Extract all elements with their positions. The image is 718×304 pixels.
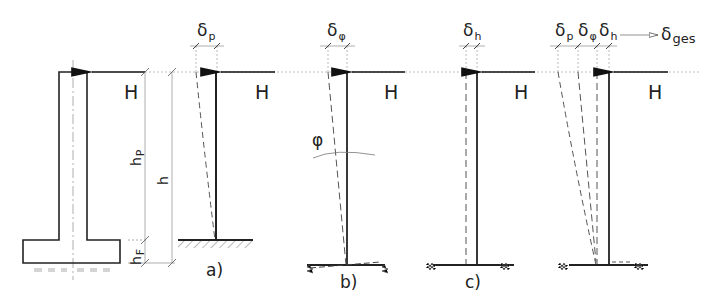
total-deflection-label: δges xyxy=(661,26,695,43)
deflection-label-c: δh xyxy=(463,22,481,39)
panel-label-b: b) xyxy=(340,274,357,291)
deflected-shape-a xyxy=(196,72,215,240)
deflection-label-a: δp xyxy=(197,22,215,39)
force-label: H xyxy=(648,83,662,102)
deflection-label-d-phi: δφ xyxy=(578,22,597,39)
panel-label-c: c) xyxy=(465,274,481,291)
deflection-label-d-h: δh xyxy=(599,22,617,39)
fixed-support-hatch xyxy=(178,240,253,248)
panel-total xyxy=(550,35,668,270)
panel-label-a: a) xyxy=(206,262,223,279)
soil-marks xyxy=(34,269,110,271)
panel-a xyxy=(178,43,275,248)
spring-support xyxy=(426,263,510,270)
deflection-label-d-p: δp xyxy=(555,22,573,39)
rotation-angle-label: φ xyxy=(312,132,323,149)
deflection-label-b: δφ xyxy=(327,22,346,39)
panel-b xyxy=(307,43,405,273)
panel-c xyxy=(426,43,535,270)
force-label: H xyxy=(514,83,528,102)
structural-deflection-diagram xyxy=(0,0,718,304)
total-height-label: h xyxy=(156,176,170,185)
pier-height-label: hP xyxy=(129,149,143,166)
foundation-height-label: hF xyxy=(129,249,143,265)
pier-outline xyxy=(23,72,120,263)
force-label: H xyxy=(384,83,398,102)
rotation-arc xyxy=(313,152,375,158)
force-label: H xyxy=(255,83,269,102)
force-label: H xyxy=(124,83,138,102)
rotated-shape-b xyxy=(328,72,346,265)
spring-support xyxy=(558,263,644,270)
